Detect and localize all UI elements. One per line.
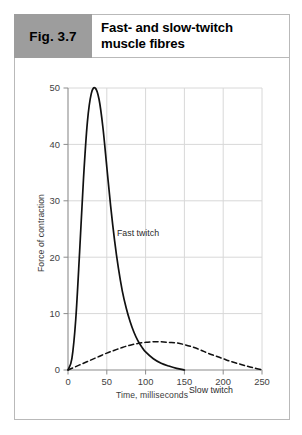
contraction-force-chart: 05010015020025001020304050 Fast twitchSl… — [14, 58, 290, 420]
y-tick-label: 0 — [55, 364, 60, 375]
chart-series — [68, 88, 262, 370]
figure-header: Fig. 3.7 Fast- and slow-twitch muscle fi… — [14, 14, 290, 58]
x-tick-label: 100 — [138, 376, 154, 387]
y-tick-label: 50 — [50, 82, 60, 93]
chart-tick-labels: 05010015020025001020304050 — [50, 82, 270, 387]
chart-area: 05010015020025001020304050 Fast twitchSl… — [14, 58, 290, 420]
series-annotation-1: Fast twitch — [117, 228, 159, 238]
figure-title-box: Fast- and slow-twitch muscle fibres — [92, 14, 290, 58]
figure-container: Fig. 3.7 Fast- and slow-twitch muscle fi… — [0, 0, 302, 435]
y-tick-label: 30 — [50, 195, 60, 206]
x-axis-title: Time, milliseconds — [14, 390, 290, 400]
figure-number-box: Fig. 3.7 — [14, 14, 92, 58]
chart-axes — [64, 88, 263, 375]
x-tick-label: 250 — [254, 376, 270, 387]
y-tick-label: 40 — [50, 139, 60, 150]
x-tick-label: 0 — [65, 376, 70, 387]
y-tick-label: 20 — [50, 252, 60, 263]
figure-number-label: Fig. 3.7 — [29, 29, 76, 44]
y-tick-label: 10 — [50, 308, 60, 319]
x-tick-label: 50 — [102, 376, 112, 387]
series-line-2 — [68, 342, 262, 370]
y-axis-title: Force of contraction — [36, 158, 46, 308]
figure-title: Fast- and slow-twitch muscle fibres — [101, 20, 233, 51]
chart-gridlines — [68, 88, 262, 370]
